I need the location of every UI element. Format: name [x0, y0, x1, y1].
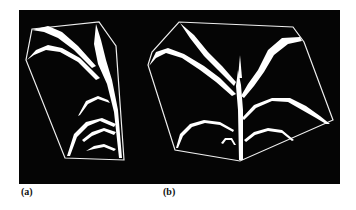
subfigure-label-a: (a)	[21, 186, 33, 197]
subfigure-b-graphic	[148, 22, 333, 161]
figure-panel	[19, 10, 340, 184]
subfigure-label-b: (b)	[163, 186, 175, 197]
subfigure-a-graphic	[26, 22, 124, 160]
plant-hull-figure	[19, 10, 340, 184]
